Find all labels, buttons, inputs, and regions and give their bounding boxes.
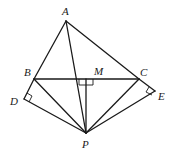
right-angle-marker-M-right (86, 79, 93, 85)
label-E: E (157, 90, 165, 102)
geometry-diagram: A B M C D E P (0, 0, 172, 154)
segment-DP (24, 99, 86, 133)
label-C: C (140, 66, 148, 78)
label-M: M (93, 65, 104, 77)
segment-CE (139, 79, 155, 91)
right-angle-marker-M-left (79, 79, 86, 85)
segment-AB (34, 21, 66, 79)
label-A: A (61, 5, 69, 17)
label-D: D (9, 95, 18, 107)
label-B: B (24, 66, 31, 78)
label-P: P (81, 138, 89, 150)
